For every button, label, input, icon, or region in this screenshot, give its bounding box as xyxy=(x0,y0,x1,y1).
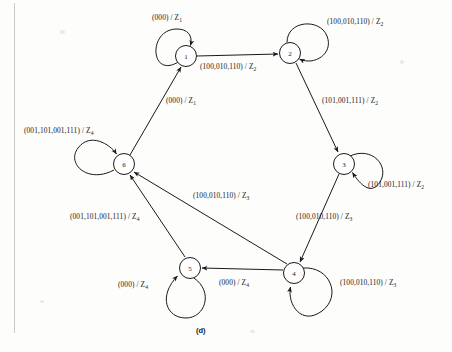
state-node-4[interactable]: 4 xyxy=(284,263,305,284)
self-loop-6-path xyxy=(75,140,117,175)
edge-5-to-6-label: (001,101,001,111) / Z4 xyxy=(70,212,140,222)
edge-4-to-6-line xyxy=(134,172,287,264)
self-loop-5-label: (000) / Z4 xyxy=(118,280,148,290)
scan-speck xyxy=(60,30,65,34)
state-node-3-label: 3 xyxy=(342,161,346,169)
self-loop-6-label: (001,101,001,111) / Z4 xyxy=(24,126,94,136)
edge-4-to-5-line xyxy=(202,268,283,270)
state-node-5[interactable]: 5 xyxy=(180,258,201,279)
state-node-5-label: 5 xyxy=(188,265,192,273)
state-diagram-svg: 1 2 3 4 5 6 xyxy=(0,0,452,352)
scan-speck xyxy=(400,60,404,64)
state-node-6[interactable]: 6 xyxy=(114,154,135,175)
edge-2-to-3-label: (101,001,111) / Z2 xyxy=(322,96,378,106)
figure-caption: (d) xyxy=(196,326,206,335)
state-node-1[interactable]: 1 xyxy=(176,46,197,67)
edge-1-to-2-line xyxy=(197,54,278,56)
scan-speck xyxy=(40,300,44,303)
state-node-1-label: 1 xyxy=(184,53,188,61)
state-node-2-label: 2 xyxy=(288,50,292,58)
edge-4-to-5-label: (000) / Z4 xyxy=(219,278,249,288)
self-loop-5-path xyxy=(166,276,205,318)
edge-6-to-1-line xyxy=(130,67,181,155)
self-loop-1-label: (000) / Z1 xyxy=(152,13,182,23)
edge-2-to-3-line xyxy=(296,63,338,152)
edge-4-to-6-label: (100,010,110) / Z3 xyxy=(193,191,250,201)
edge-1-to-2-label: (100,010,110) / Z2 xyxy=(200,62,257,72)
figure-canvas: 1 2 3 4 5 6 (000) / Z1 (100,010,110) / Z… xyxy=(0,0,452,352)
self-loop-2-label: (100,010,110) / Z2 xyxy=(327,17,384,27)
edge-3-to-4-label: (100,010,110) / Z3 xyxy=(296,212,353,222)
state-node-2[interactable]: 2 xyxy=(280,43,301,64)
self-loop-4-label: (100,010,110) / Z3 xyxy=(340,278,397,288)
self-loop-3-label: (101,001,111) / Z2 xyxy=(368,180,424,190)
state-node-4-label: 4 xyxy=(292,270,296,278)
edge-6-to-1-label: (000) / Z1 xyxy=(166,96,196,106)
state-node-3[interactable]: 3 xyxy=(334,154,355,175)
state-node-6-label: 6 xyxy=(122,161,126,169)
scan-speck xyxy=(250,330,255,333)
